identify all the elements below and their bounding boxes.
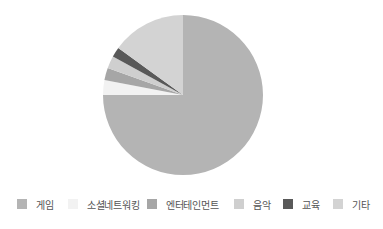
legend: 게임 소셜네트워킹 엔터테인먼트 음악 교육 기타 [0,197,383,211]
pie-chart [0,0,383,190]
legend-label: 기타 [352,197,369,212]
legend-item-social-networking[interactable]: 소셜네트워킹 [68,197,139,211]
legend-swatch-social-networking [68,199,78,209]
legend-item-other[interactable]: 기타 [333,197,369,211]
legend-item-music[interactable]: 음악 [234,197,270,211]
legend-swatch-entertainment [147,199,157,209]
legend-label: 소셜네트워킹 [87,197,139,212]
legend-item-education[interactable]: 교육 [283,197,319,211]
legend-label: 게임 [36,197,53,212]
legend-swatch-music [234,199,244,209]
legend-swatch-game [17,199,27,209]
legend-label: 교육 [302,197,319,212]
legend-item-game[interactable]: 게임 [17,197,53,211]
legend-label: 음악 [253,197,270,212]
legend-label: 엔터테인먼트 [166,197,218,212]
legend-swatch-other [333,199,343,209]
legend-swatch-education [283,199,293,209]
legend-item-entertainment[interactable]: 엔터테인먼트 [147,197,218,211]
